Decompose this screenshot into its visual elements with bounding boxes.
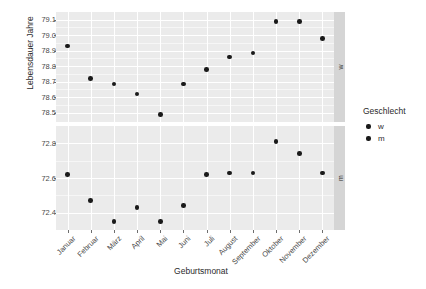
y-tick-label: 72.8 (22, 139, 56, 148)
facet-strip-w: w (334, 12, 345, 122)
grid-line-major-x (137, 12, 138, 122)
data-point (65, 172, 70, 177)
y-tick-label: 79.1 (22, 15, 56, 24)
x-tick-mark (114, 230, 115, 233)
x-tick-mark (322, 230, 323, 233)
data-point (227, 171, 232, 176)
legend-item-m[interactable]: m (363, 133, 425, 144)
grid-line-major-y (56, 66, 334, 67)
grid-line-major-y (56, 178, 334, 179)
grid-line-major-x (299, 12, 300, 122)
grid-line-major-y (56, 213, 334, 214)
grid-line-major-y (56, 143, 334, 144)
data-point (204, 67, 209, 72)
x-tick-mark (207, 230, 208, 233)
legend-key-icon-w (363, 121, 374, 132)
x-tick-mark (91, 230, 92, 233)
grid-line-major-y (56, 20, 334, 21)
data-point (181, 82, 186, 87)
data-point (158, 112, 163, 117)
grid-line-major-x (183, 12, 184, 122)
facet-strip-m: m (334, 126, 345, 230)
grid-line-major-y (56, 51, 334, 52)
grid-line-major-y (56, 82, 334, 83)
grid-line-minor-y (56, 43, 334, 44)
grid-line-minor-y (56, 105, 334, 106)
x-axis: JanuarFebruarMärzAprilMaiJuniJuliAugustS… (56, 230, 334, 270)
data-point (65, 44, 70, 49)
grid-line-major-x (276, 12, 277, 122)
y-tick-label: 78.6 (22, 93, 56, 102)
legend-item-w[interactable]: w (363, 121, 425, 132)
grid-line-minor-y (56, 195, 334, 196)
y-tick-label: 78.8 (22, 62, 56, 71)
data-point (274, 19, 279, 24)
data-point (320, 36, 325, 41)
data-point (251, 51, 256, 56)
grid-line-major-y (56, 97, 334, 98)
grid-line-major-x (207, 126, 208, 230)
grid-line-minor-y (56, 74, 334, 75)
grid-line-major-x (299, 126, 300, 230)
grid-line-major-x (322, 12, 323, 122)
panel-w (56, 12, 334, 122)
data-point (297, 151, 302, 156)
data-point (88, 76, 93, 81)
x-tick-mark (299, 230, 300, 233)
data-point (88, 198, 93, 203)
facet-strip-label-w: w (336, 64, 343, 69)
x-tick-label: Juni (177, 234, 193, 250)
panel-m (56, 126, 334, 230)
x-tick-label: April (129, 234, 146, 251)
x-tick-mark (68, 230, 69, 233)
data-point (181, 203, 186, 208)
grid-line-major-x (253, 126, 254, 230)
grid-line-major-y (56, 113, 334, 114)
facet-strip-label-m: m (336, 175, 343, 181)
y-axis: 79.179.078.978.878.778.678.572.872.672.4 (18, 0, 56, 289)
data-point (135, 92, 140, 97)
x-tick-label: Februar (75, 234, 100, 259)
x-tick-label: Januar (54, 234, 77, 257)
data-point (158, 219, 163, 224)
data-point (112, 219, 117, 224)
grid-line-major-x (160, 12, 161, 122)
grid-line-major-x (68, 126, 69, 230)
x-tick-mark (137, 230, 138, 233)
legend-key-icon-m (363, 133, 374, 144)
grid-line-minor-y (56, 27, 334, 28)
x-tick-mark (276, 230, 277, 233)
data-point (112, 82, 117, 87)
legend-title: Geschlecht (363, 106, 425, 116)
grid-line-major-x (68, 12, 69, 122)
x-tick-label: Juli (202, 234, 216, 248)
grid-line-minor-y (56, 58, 334, 59)
grid-line-minor-y (56, 89, 334, 90)
grid-line-major-x (253, 12, 254, 122)
legend-label-w: w (378, 122, 384, 131)
y-tick-label: 72.4 (22, 208, 56, 217)
y-tick-label: 72.6 (22, 174, 56, 183)
x-tick-mark (160, 230, 161, 233)
grid-line-major-x (230, 126, 231, 230)
data-point (204, 172, 209, 177)
x-tick-mark (253, 230, 254, 233)
x-tick-mark (183, 230, 184, 233)
grid-line-major-x (322, 126, 323, 230)
legend: Geschlecht w m (363, 106, 425, 145)
grid-line-major-x (91, 12, 92, 122)
x-tick-label: Mai (155, 234, 170, 249)
y-tick-label: 78.7 (22, 77, 56, 86)
data-point (251, 171, 256, 176)
grid-line-major-y (56, 35, 334, 36)
grid-line-minor-y (56, 161, 334, 162)
y-tick-label: 78.5 (22, 108, 56, 117)
x-tick-mark (230, 230, 231, 233)
grid-line-major-x (91, 126, 92, 230)
data-point (135, 205, 140, 210)
y-tick-label: 78.9 (22, 46, 56, 55)
y-tick-label: 79.0 (22, 31, 56, 40)
grid-line-major-x (114, 126, 115, 230)
grid-line-major-x (137, 126, 138, 230)
x-tick-label: März (105, 234, 123, 252)
